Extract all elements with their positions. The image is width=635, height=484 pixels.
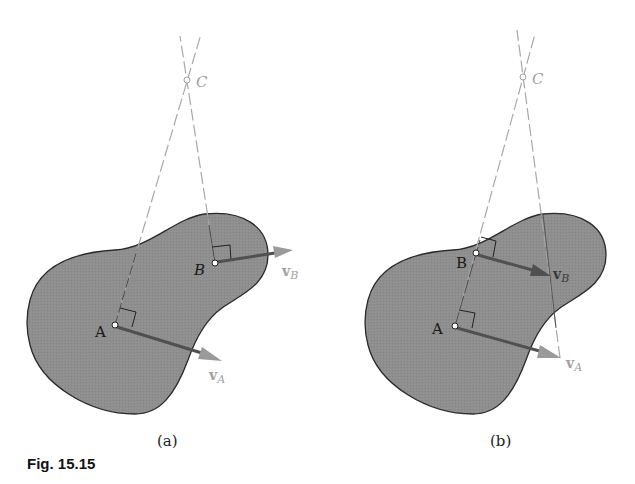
label-vA-a: vA — [208, 367, 225, 386]
point-C-a — [184, 77, 190, 83]
label-B-b: B — [456, 254, 467, 272]
panel-a: A B C vA vB (a) — [27, 34, 298, 450]
panel-label-b: (b) — [490, 432, 511, 450]
rigid-body-b — [365, 213, 606, 414]
velocity-vA-arrowhead-a — [198, 347, 222, 361]
velocity-vB-arrowhead-a — [273, 246, 293, 258]
figure-caption: Fig. 15.15 — [27, 455, 95, 472]
figure-canvas: A B C vA vB (a) A B C vB vA (b) — [0, 0, 635, 484]
label-B-a: B — [193, 261, 205, 279]
panel-label-a: (a) — [157, 432, 178, 450]
point-B-a — [212, 260, 218, 266]
point-A-a — [112, 322, 118, 328]
label-vA-b: vA — [565, 355, 582, 374]
label-A-b: A — [431, 320, 443, 338]
label-vB-a: vB — [281, 263, 298, 282]
velocity-vA-arrowhead-b — [537, 345, 561, 358]
label-C-b: C — [532, 70, 544, 88]
point-A-b — [452, 323, 458, 329]
panel-b: A B C vB vA (b) — [365, 30, 606, 450]
label-C-a: C — [196, 73, 208, 91]
point-B-b — [473, 250, 479, 256]
point-C-b — [520, 74, 526, 80]
rigid-body-a — [27, 213, 268, 414]
label-A-a: A — [94, 323, 106, 341]
